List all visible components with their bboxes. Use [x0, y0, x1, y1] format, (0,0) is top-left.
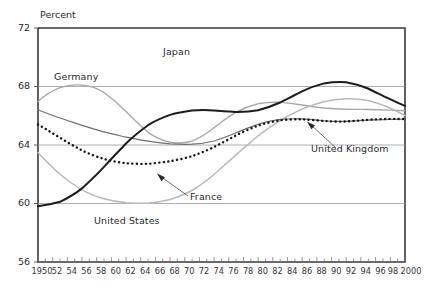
- x-axis-label-1970: 70: [184, 266, 194, 276]
- x-axis-label-1956: 56: [81, 266, 91, 276]
- x-axis-label-1954: 54: [66, 266, 76, 276]
- x-axis-label-1978: 78: [243, 266, 253, 276]
- france-leader: [157, 174, 188, 197]
- series-label-germany: Germany: [54, 71, 98, 82]
- x-axis-label-2000: 2000: [401, 266, 422, 276]
- series-label-france: France: [190, 191, 222, 202]
- series-line-germany: [38, 85, 405, 143]
- series-label-united-states: United States: [94, 215, 160, 226]
- x-axis-label-1976: 76: [228, 266, 238, 276]
- y-axis-label-72: 72: [18, 22, 30, 33]
- x-axis-label-1968: 68: [169, 266, 179, 276]
- x-axis-label-1984: 84: [287, 266, 297, 276]
- series-line-france: [38, 119, 405, 164]
- x-axis-label-1996: 96: [375, 266, 385, 276]
- x-axis-label-1960: 60: [111, 266, 121, 276]
- x-axis-label-1988: 88: [316, 266, 326, 276]
- y-axis-label-64: 64: [18, 139, 30, 150]
- chart-figure: Percent: [0, 0, 427, 298]
- x-axis-label-1998: 98: [388, 266, 398, 276]
- series-label-japan: Japan: [163, 46, 190, 57]
- x-axis-label-1958: 58: [96, 266, 106, 276]
- series-label-united-kingdom: United Kingdom: [311, 143, 389, 154]
- y-axis-label-60: 60: [18, 197, 30, 208]
- x-axis-label-1974: 74: [213, 266, 223, 276]
- x-axis-label-1980: 80: [258, 266, 268, 276]
- x-axis-label-1992: 92: [346, 266, 356, 276]
- x-axis-label-1952: 52: [52, 266, 62, 276]
- x-axis-label-1994: 94: [360, 266, 370, 276]
- y-axis-label-68: 68: [18, 80, 30, 91]
- y-axis-label-56: 56: [18, 256, 30, 267]
- x-axis-label-1964: 64: [140, 266, 150, 276]
- x-axis-label-1982: 82: [272, 266, 282, 276]
- x-axis-label-1986: 86: [302, 266, 312, 276]
- x-axis-label-1966: 66: [155, 266, 165, 276]
- x-axis-label-1972: 72: [199, 266, 209, 276]
- series-line-united-kingdom: [38, 110, 405, 144]
- x-axis-label-1990: 90: [331, 266, 341, 276]
- x-axis-label-1962: 62: [125, 266, 135, 276]
- x-axis-label-1950: 1950: [32, 266, 53, 276]
